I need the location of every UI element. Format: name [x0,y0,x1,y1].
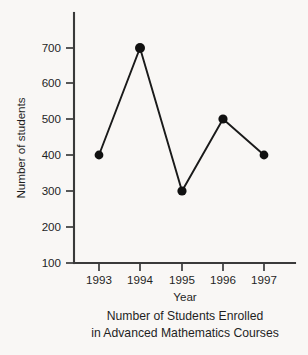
x-axis-title: Year [173,290,197,303]
line-chart-figure: 700 600 500 400 300 200 100 1993 1994 19… [0,0,308,355]
x-tick-label-1994: 1994 [127,273,153,286]
data-point-1997 [260,151,269,160]
y-tick-label-600: 600 [42,76,61,89]
y-axis-title: Number of students [14,97,27,198]
y-tick-label-700: 700 [42,41,61,54]
x-tick-label-1996: 1996 [210,273,236,286]
data-point-1996 [218,114,227,123]
y-tick-label-300: 300 [42,184,61,197]
data-point-1993 [95,151,104,160]
x-tick-label-1993: 1993 [86,273,112,286]
data-point-1995 [177,186,186,195]
caption-line-1: Number of Students Enrolled [107,309,264,323]
y-tick-label-400: 400 [42,148,61,161]
y-tick-label-200: 200 [42,220,61,233]
x-tick-label-1995: 1995 [169,273,195,286]
x-tick-label-1997: 1997 [251,273,277,286]
data-point-1994 [135,43,145,53]
caption-line-2: in Advanced Mathematics Courses [91,326,279,340]
y-tick-label-500: 500 [42,112,61,125]
y-tick-label-100: 100 [42,256,61,269]
